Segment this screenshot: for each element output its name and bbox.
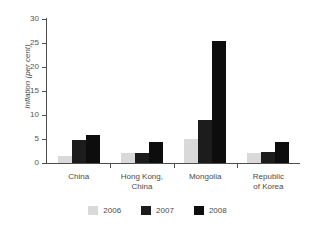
- bar-2007-republic-of-korea: [261, 152, 275, 163]
- y-axis-tick-label: 0: [9, 159, 39, 167]
- y-axis-tick-label: 20: [9, 63, 39, 71]
- y-axis-tick: [42, 19, 46, 20]
- y-axis-tick-label: 25: [9, 39, 39, 47]
- x-axis-label-china: China: [47, 172, 110, 182]
- inflation-bar-chart: Inflation (per cent) 051015202530 ChinaH…: [0, 0, 315, 240]
- y-axis-tick-label: 15: [9, 87, 39, 95]
- y-axis-tick: [42, 163, 46, 164]
- x-axis-label-mongolia: Mongolia: [174, 172, 237, 182]
- legend-swatch-2006: [88, 206, 98, 215]
- legend-item-2007[interactable]: 2007: [141, 206, 174, 215]
- y-axis-tick-label: 10: [9, 111, 39, 119]
- bar-2007-hong-kong-china: [135, 153, 149, 163]
- legend-label-2008: 2008: [209, 206, 227, 215]
- x-axis-tick: [174, 164, 175, 168]
- legend-swatch-2008: [194, 206, 204, 215]
- x-axis-label-republic-of-korea: Republic of Korea: [237, 172, 300, 192]
- legend-item-2006[interactable]: 2006: [88, 206, 121, 215]
- plot-area: [47, 19, 300, 163]
- bar-2008-mongolia: [212, 41, 226, 163]
- chart-legend: 200620072008: [0, 206, 315, 215]
- bar-2006-hong-kong-china: [121, 153, 135, 163]
- bar-2008-china: [86, 135, 100, 163]
- bar-2006-republic-of-korea: [247, 153, 261, 163]
- bar-2008-hong-kong-china: [149, 142, 163, 163]
- x-axis-label-hong-kong-china: Hong Kong, China: [110, 172, 173, 192]
- bar-2007-mongolia: [198, 120, 212, 163]
- y-axis-tick: [42, 43, 46, 44]
- legend-label-2006: 2006: [103, 206, 121, 215]
- y-axis-tick-label: 5: [9, 135, 39, 143]
- bar-2006-mongolia: [184, 139, 198, 163]
- y-axis-tick-label: 30: [9, 15, 39, 23]
- bar-2006-china: [58, 156, 72, 163]
- y-axis-tick: [42, 91, 46, 92]
- bar-2008-republic-of-korea: [275, 142, 289, 163]
- x-axis-tick: [110, 164, 111, 168]
- legend-label-2007: 2007: [156, 206, 174, 215]
- y-axis-tick: [42, 67, 46, 68]
- legend-swatch-2007: [141, 206, 151, 215]
- y-axis-tick: [42, 115, 46, 116]
- legend-item-2008[interactable]: 2008: [194, 206, 227, 215]
- x-axis-tick: [237, 164, 238, 168]
- y-axis-tick: [42, 139, 46, 140]
- bar-2007-china: [72, 140, 86, 163]
